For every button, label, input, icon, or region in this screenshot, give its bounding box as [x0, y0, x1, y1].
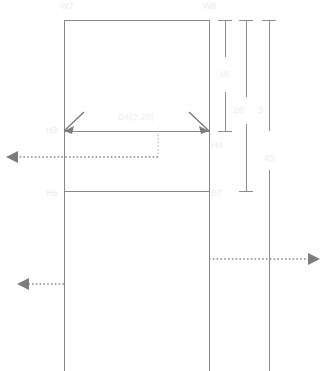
dimension-value-26: 26: [233, 104, 244, 115]
technical-drawing-canvas: W7 W8 H3 H4 B4(2.25) B7 R6 18 26 3 45: [0, 0, 327, 371]
label-room-ref: R6: [46, 188, 58, 198]
label-beam-bottom: B7: [211, 188, 222, 198]
dimension-value-3: 3: [258, 104, 263, 115]
label-wall-left: W7: [60, 1, 74, 11]
mid-left-arrowhead: [6, 151, 18, 163]
upper-wall-block: [64, 20, 209, 191]
annotation-arrow-lower-left: [17, 278, 64, 290]
label-wall-right: W8: [203, 1, 217, 11]
lower-left-arrowhead: [17, 278, 29, 290]
label-beam-top: B4(2.25): [118, 111, 154, 122]
dimension-value-45: 45: [264, 152, 275, 163]
haunch-right-leader: [189, 112, 209, 131]
annotation-arrow-mid-left: [6, 131, 158, 163]
label-height-lower: H4: [211, 140, 223, 150]
right-arrowhead: [308, 253, 320, 265]
elevation-drawing-svg: W7 W8 H3 H4 B4(2.25) B7 R6 18 26 3 45: [0, 0, 327, 371]
lower-wall-tail: [64, 191, 209, 371]
annotation-arrow-right: [209, 253, 320, 265]
haunch-left-leader: [64, 112, 84, 131]
label-height-upper: H3: [46, 125, 58, 135]
dimension-value-18: 18: [219, 68, 230, 79]
